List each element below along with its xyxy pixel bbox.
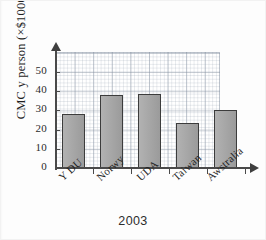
x-tick-mark-2 [131,169,132,174]
x-tick-mark-5 [245,169,246,174]
y-tick-mark [55,72,60,73]
y-tick-mark [55,91,60,92]
x-axis-title: 2003 [0,214,266,228]
y-tick-label: 50 [36,64,47,76]
y-tick-label: 40 [36,83,47,95]
y-tick-label: 10 [36,141,47,153]
y-tick-mark [55,110,60,111]
y-tick-mark [55,168,60,169]
bar-chart-figure: 0 10 20 30 40 50 Y DU Norwy UDA Taiwan A… [0,0,266,240]
y-tick-label: 30 [36,102,47,114]
x-axis-arrow-icon [250,163,259,173]
y-tick-mark [55,149,60,150]
y-axis-line [55,48,57,170]
bar-uda [138,94,161,168]
y-axis-arrow-icon [51,42,61,51]
y-tick-mark [55,130,60,131]
y-axis-title: CMC y person (×$1000) [14,0,29,121]
y-tick-label: 20 [36,122,47,134]
y-tick-label: 0 [41,160,47,172]
